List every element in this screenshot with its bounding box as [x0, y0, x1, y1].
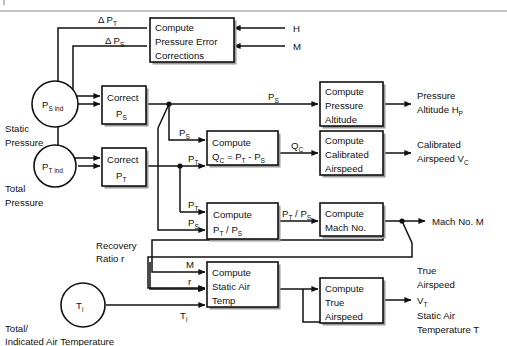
wire-r-to-sat-path	[150, 265, 205, 288]
box-correct-pt[interactable]: Correct PT	[102, 148, 149, 189]
static-pressure-caption-2: Pressure	[5, 137, 43, 148]
wire-recovery-ratio-visible	[150, 262, 205, 289]
top-divider-rule	[0, 0, 507, 11]
input-circle-ti[interactable]: Ti	[61, 283, 105, 327]
sat-line1: Compute	[212, 267, 251, 278]
output-calibrated-1: Calibrated	[417, 139, 461, 150]
box-compute-qc[interactable]: Compute QC = PT - PS	[207, 131, 281, 168]
box-compute-static-air-temp[interactable]: Compute Static Air Temp	[207, 262, 281, 310]
static-pressure-caption-1: Static	[5, 123, 29, 134]
ti-caption-1: Total/	[5, 323, 28, 334]
cpa-line2: Pressure	[325, 100, 363, 111]
cas-line2: Calibrated	[325, 149, 369, 160]
mach-line2: Mach No.	[325, 222, 366, 233]
tas-line3: Airspeed	[325, 311, 363, 322]
box-pressure-error-corrections[interactable]: Compute Pressure Error Corrections	[150, 18, 237, 65]
label-ps-altitude: PS	[268, 91, 279, 104]
label-m-top: M	[293, 41, 301, 52]
cpa-line3: Altitude	[325, 114, 357, 125]
label-ps-ratio: PS	[188, 217, 199, 230]
junction-pt	[177, 163, 182, 168]
label-r-sat: r	[188, 276, 192, 287]
ti-caption-2: Indicated Air Temperature	[5, 336, 114, 346]
pec-line2: Pressure Error	[155, 36, 218, 47]
ratio-line1: Compute	[213, 209, 252, 220]
output-tas-1: True	[417, 265, 436, 276]
box-compute-pressure-ratio[interactable]: Compute PT / PS	[207, 203, 281, 242]
box-correct-ps[interactable]: Correct PS	[102, 86, 149, 127]
sat-line2: Static Air	[212, 281, 251, 292]
box-compute-calibrated-airspeed[interactable]: Compute Calibrated Airspeed	[320, 131, 386, 178]
total-pressure-caption-1: Total	[5, 183, 25, 194]
junction-mach	[399, 218, 404, 223]
input-circle-ps-ind[interactable]: PS ind	[32, 81, 78, 127]
output-calibrated-2: Airspeed VC	[417, 153, 469, 166]
pec-line3: Corrections	[155, 50, 204, 61]
cpa-line1: Compute	[325, 86, 364, 97]
label-ps-qc: PS	[179, 127, 190, 140]
total-pressure-caption-2: Pressure	[5, 197, 43, 208]
recovery-ratio-line2: Ratio r	[96, 253, 125, 264]
sat-line3: Temp	[212, 295, 235, 306]
mach-line1: Compute	[325, 208, 364, 219]
output-tas-3: VT	[417, 295, 427, 308]
label-ti-sat: Ti	[180, 310, 188, 323]
box-compute-mach-no[interactable]: Compute Mach No.	[320, 203, 386, 239]
output-sat-2: Temperature T	[417, 324, 479, 335]
cas-line3: Airspeed	[325, 163, 363, 174]
label-ratio-out: PT / PS	[282, 208, 312, 221]
correct-ps-line1: Correct	[107, 92, 139, 103]
junction-ps	[166, 101, 171, 106]
qc-line1: Compute	[212, 137, 251, 148]
label-delta-pt: Δ PT	[98, 14, 117, 27]
label-pt-ratio: PT	[188, 199, 198, 212]
output-pressure-altitude-1: Pressure	[417, 90, 455, 101]
label-m-sat: M	[186, 259, 194, 270]
label-delta-ps: Δ PS	[105, 35, 125, 48]
label-pt-qc: PT	[188, 153, 198, 166]
output-mach: Mach No. M	[432, 216, 484, 227]
cas-line1: Compute	[325, 135, 364, 146]
air-data-block-diagram: Compute Pressure Error Corrections Corre…	[0, 0, 507, 346]
label-qc: QC	[291, 140, 303, 153]
pec-line1: Compute	[155, 22, 194, 33]
wire-ps-riser-diagonal	[158, 104, 169, 128]
label-h: H	[293, 23, 300, 34]
correct-pt-line1: Correct	[107, 154, 139, 165]
recovery-ratio-line1: Recovery	[96, 240, 137, 251]
box-compute-true-airspeed[interactable]: Compute True Airspeed	[320, 278, 386, 326]
output-pressure-altitude-2: Altitude HP	[417, 104, 464, 117]
box-compute-pressure-altitude[interactable]: Compute Pressure Altitude	[320, 82, 386, 129]
tas-line2: True	[325, 297, 344, 308]
input-circle-pt-ind[interactable]: PT ind	[34, 145, 76, 187]
wire-recovery-ratio	[150, 265, 205, 289]
output-tas-2: Airspeed	[417, 279, 455, 290]
figure-canvas: Compute Pressure Error Corrections Corre…	[0, 0, 507, 346]
tas-line1: Compute	[325, 283, 364, 294]
output-sat-1: Static Air	[417, 310, 456, 321]
